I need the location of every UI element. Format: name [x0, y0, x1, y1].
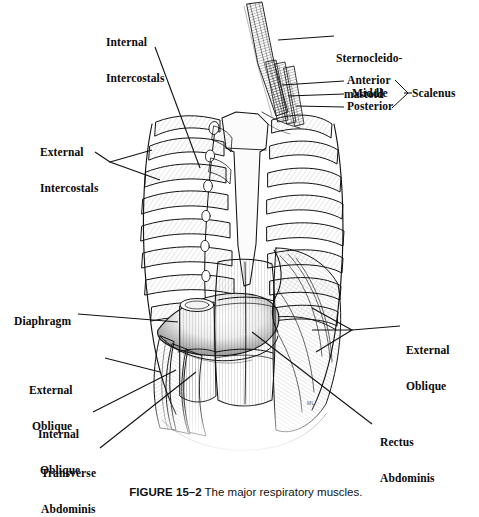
label-internal-intercostals: Internal Intercostals	[106, 12, 164, 108]
label-external-oblique-right-line1: External	[406, 344, 450, 356]
label-external-oblique-right: External Oblique	[406, 320, 450, 416]
figure-caption-text: The major respiratory muscles.	[205, 486, 363, 498]
label-internal-oblique-line1: Internal	[38, 428, 80, 440]
leader-sternocleidomastoid	[278, 36, 334, 40]
label-scalenus-group: Scalenus	[412, 88, 456, 100]
figure-caption-label: FIGURE 15–2	[129, 486, 201, 498]
label-internal-intercostals-line1: Internal	[106, 36, 164, 48]
label-rectus-abdominis-line1: Rectus	[380, 436, 435, 448]
label-diaphragm: Diaphragm	[14, 316, 71, 328]
label-external-oblique-left-line1: External	[29, 384, 73, 396]
leader-external-oblique-left	[105, 358, 160, 372]
label-external-intercostals: External Intercostals	[40, 122, 98, 218]
label-external-oblique-right-line2: Oblique	[406, 380, 450, 392]
label-sternocleidomastoid-line1: Sternocleido-	[336, 52, 402, 64]
label-external-intercostals-line2: Intercostals	[40, 182, 98, 194]
artist-signature: ML	[307, 400, 315, 406]
label-external-intercostals-line1: External	[40, 146, 98, 158]
label-scalenus-middle: Middle	[352, 88, 388, 100]
label-scalenus-posterior: Posterior	[347, 101, 393, 113]
label-scalenus-anterior: Anterior	[347, 75, 391, 87]
label-internal-intercostals-line2: Intercostals	[106, 72, 164, 84]
figure-caption: FIGURE 15–2 The major respiratory muscle…	[0, 474, 479, 510]
